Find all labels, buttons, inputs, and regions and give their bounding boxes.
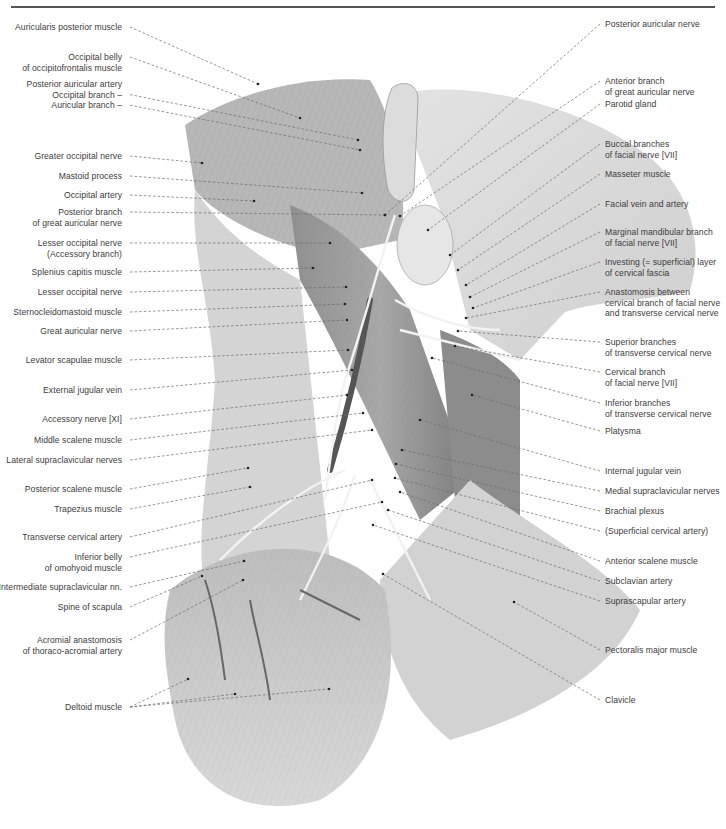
label-line: Posterior scalene muscle: [25, 484, 122, 495]
label-right: Cervical branchof facial nerve [VII]: [605, 367, 677, 388]
label-right: Anterior branchof great auricular nerve: [605, 76, 695, 97]
label-left: Deltoid muscle: [65, 702, 122, 713]
label-line: of omohyoid muscle: [45, 563, 122, 574]
label-line: Middle scalene muscle: [34, 435, 122, 446]
label-line: Accessory nerve [XI]: [42, 414, 122, 425]
label-line: Inferior belly: [45, 552, 122, 563]
label-left: Splenius capitis muscle: [32, 267, 122, 278]
label-right: Internal jugular vein: [605, 466, 681, 477]
label-right: Suprascapular artery: [605, 596, 686, 607]
label-line: Occipital belly: [22, 52, 122, 63]
label-line: cervical branch of facial nerve: [605, 298, 720, 309]
label-line: Brachial plexus: [605, 506, 664, 517]
label-line: Inferior branches: [605, 398, 711, 409]
label-line: Pectoralis major muscle: [605, 645, 697, 656]
label-line: Investing (= superficial) layer: [605, 257, 716, 268]
label-line: Anterior branch: [605, 76, 695, 87]
label-left: Lateral supraclavicular nerves: [6, 455, 122, 466]
label-line: of facial nerve [VII]: [605, 150, 677, 161]
label-line: Suprascapular artery: [605, 596, 686, 607]
label-right: Subclavian artery: [605, 576, 672, 587]
label-line: of thoraco-acromial artery: [23, 646, 122, 657]
label-line: Levator scapulae muscle: [26, 355, 122, 366]
label-line: Marginal mandibular branch: [605, 227, 713, 238]
label-line: Parotid gland: [605, 99, 656, 110]
label-right: Anterior scalene muscle: [605, 556, 698, 567]
label-right: Facial vein and artery: [605, 199, 688, 210]
label-left: Great auricular nerve: [40, 326, 122, 337]
label-left: Greater occipital nerve: [34, 151, 122, 162]
label-line: Platysma: [605, 426, 641, 437]
label-line: Posterior auricular artery: [27, 79, 122, 90]
label-line: Acromial anastomosis: [23, 635, 122, 646]
label-line: Medial supraclavicular nerves: [605, 486, 720, 497]
label-line: Sternocleidomastoid muscle: [13, 307, 122, 318]
label-right: Pectoralis major muscle: [605, 645, 697, 656]
label-right: Clavicle: [605, 695, 636, 706]
ear: [383, 84, 418, 202]
label-right: Parotid gland: [605, 99, 656, 110]
label-line: Trapezius muscle: [54, 504, 122, 515]
label-line: Intermediate supraclavicular nn.: [0, 582, 122, 593]
label-left: Mastoid process: [59, 171, 122, 182]
label-line: of facial nerve [VII]: [605, 238, 713, 249]
label-left: Inferior bellyof omohyoid muscle: [45, 552, 122, 573]
chest-skin: [380, 480, 640, 740]
label-line: of facial nerve [VII]: [605, 378, 677, 389]
label-line: of cervical fascia: [605, 268, 716, 279]
label-right: Investing (= superficial) layerof cervic…: [605, 257, 716, 278]
label-line: Clavicle: [605, 695, 636, 706]
label-line: of great auricular nerve: [605, 87, 695, 98]
label-line: of transverse cervical nerve: [605, 409, 711, 420]
label-line: Buccal branches: [605, 139, 677, 150]
label-left: Trapezius muscle: [54, 504, 122, 515]
label-line: Masseter muscle: [605, 169, 671, 180]
label-right: Masseter muscle: [605, 169, 671, 180]
label-line: and transverse cervical nerve: [605, 308, 720, 319]
label-line: of occipitofrontalis muscle: [22, 63, 122, 74]
label-line: Auricularis posterior muscle: [15, 22, 122, 33]
label-line: of transverse cervical nerve: [605, 348, 711, 359]
label-line: Auricular branch –: [27, 100, 122, 111]
label-line: Mastoid process: [59, 171, 122, 182]
label-line: Cervical branch: [605, 367, 677, 378]
label-line: Deltoid muscle: [65, 702, 122, 713]
label-line: Great auricular nerve: [40, 326, 122, 337]
label-right: Buccal branchesof facial nerve [VII]: [605, 139, 677, 160]
label-left: Occipital artery: [64, 190, 122, 201]
label-line: Superior branches: [605, 337, 711, 348]
label-right: Posterior auricular nerve: [605, 19, 700, 30]
label-left: Posterior auricular arteryOccipital bran…: [27, 79, 122, 111]
label-right: Brachial plexus: [605, 506, 664, 517]
label-left: Acromial anastomosisof thoraco-acromial …: [23, 635, 122, 656]
label-line: Occipital branch –: [27, 90, 122, 101]
label-line: Lesser occipital nerve: [38, 238, 122, 249]
label-line: Subclavian artery: [605, 576, 672, 587]
label-right: Inferior branchesof transverse cervical …: [605, 398, 711, 419]
label-left: Posterior branchof great auricular nerve: [32, 207, 122, 228]
label-line: Spine of scapula: [58, 602, 122, 613]
label-left: Spine of scapula: [58, 602, 122, 613]
label-line: Lesser occipital nerve: [38, 287, 122, 298]
label-line: Transverse cervical artery: [22, 532, 122, 543]
label-left: Transverse cervical artery: [22, 532, 122, 543]
label-right: Superior branchesof transverse cervical …: [605, 337, 711, 358]
label-left: Lesser occipital nerve: [38, 287, 122, 298]
label-line: of great auricular nerve: [32, 218, 122, 229]
label-left: Occipital bellyof occipitofrontalis musc…: [22, 52, 122, 73]
label-line: Splenius capitis muscle: [32, 267, 122, 278]
label-line: External jugular vein: [43, 385, 122, 396]
label-left: Intermediate supraclavicular nn.: [0, 582, 122, 593]
label-right: (Superficial cervical artery): [605, 526, 708, 537]
label-line: (Superficial cervical artery): [605, 526, 708, 537]
label-left: External jugular vein: [43, 385, 122, 396]
label-line: Occipital artery: [64, 190, 122, 201]
label-line: Internal jugular vein: [605, 466, 681, 477]
parotid-gland: [397, 205, 453, 285]
label-right: Marginal mandibular branchof facial nerv…: [605, 227, 713, 248]
label-right: Medial supraclavicular nerves: [605, 486, 720, 497]
label-line: Posterior auricular nerve: [605, 19, 700, 30]
label-left: Accessory nerve [XI]: [42, 414, 122, 425]
label-line: Lateral supraclavicular nerves: [6, 455, 122, 466]
label-line: (Accessory branch): [38, 249, 122, 260]
